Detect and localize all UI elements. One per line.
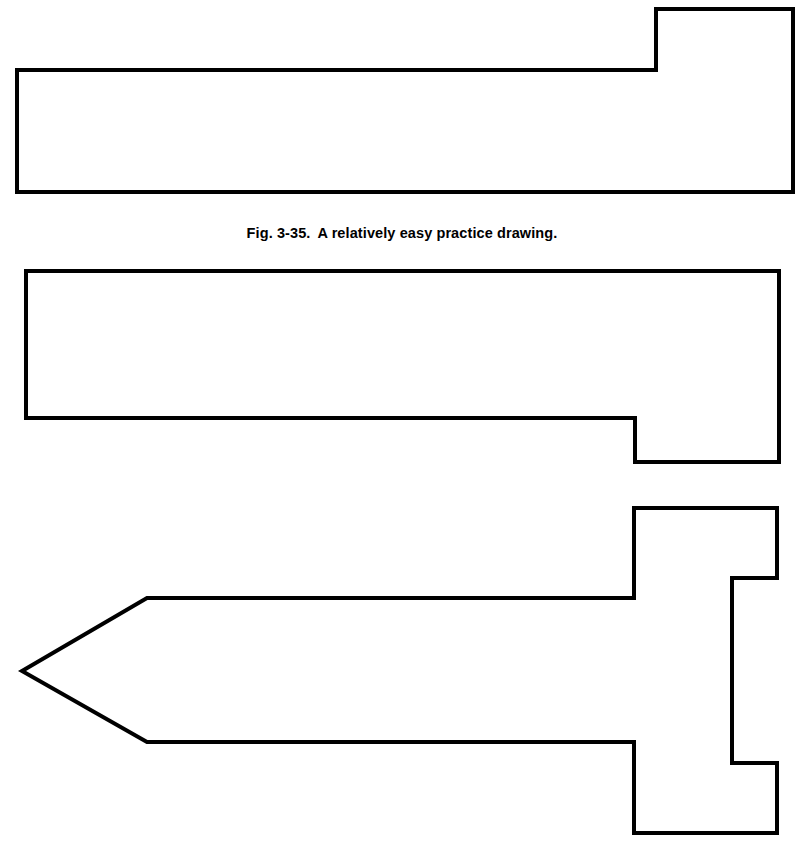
figure-1-caption: Fig. 3-35.A relatively easy practice dra… [0, 225, 804, 241]
figure-1-container [0, 0, 804, 210]
figure-3-drawing [0, 490, 804, 861]
drawing-page: Fig. 3-35.A relatively easy practice dra… [0, 0, 804, 861]
notched-bar-step-down-right-outline [26, 271, 779, 462]
figure-2-container [0, 255, 804, 480]
figure-2-drawing [0, 255, 804, 480]
arrow-sword-outline [22, 508, 777, 833]
figure-1-drawing [0, 0, 804, 210]
caption-text: A relatively easy practice drawing. [317, 225, 557, 241]
figure-3-container [0, 490, 804, 861]
notched-bar-step-up-right-outline [17, 9, 793, 192]
caption-label: Fig. 3-35. [247, 225, 311, 241]
